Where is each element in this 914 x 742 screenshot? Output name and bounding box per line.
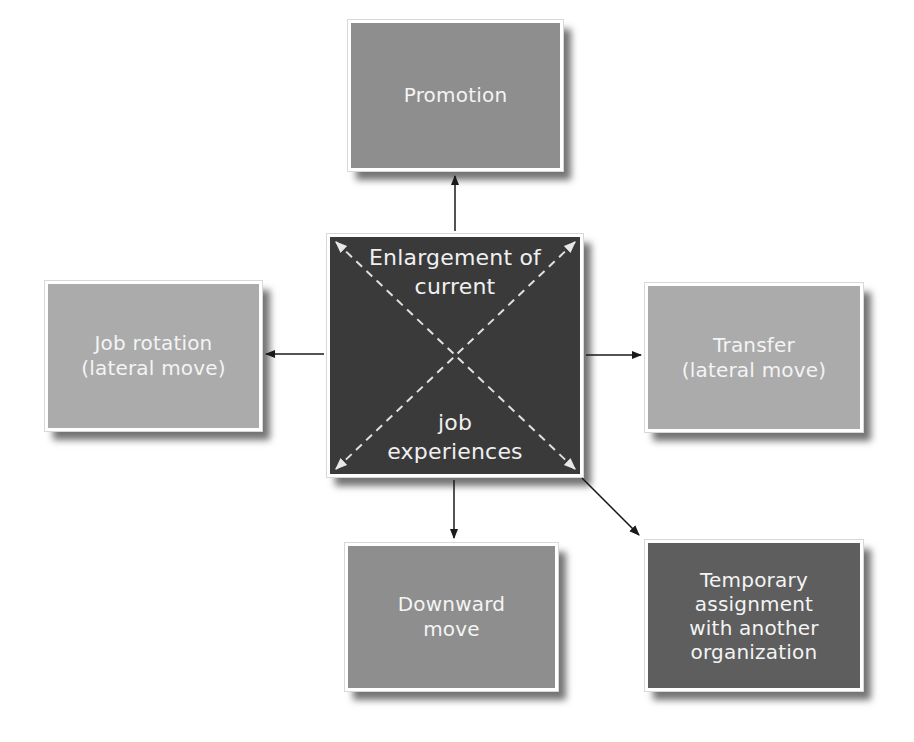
node-downward-move-label: Downward move: [398, 592, 505, 642]
node-center-enlargement: Enlargement of current job experiences: [327, 234, 583, 477]
career-development-diagram: Promotion Job rotation (lateral move) Tr…: [0, 0, 914, 742]
center-label-top: Enlargement of current: [330, 243, 580, 301]
arrow-to-temporary-assignment: [582, 478, 639, 535]
node-temporary-assignment: Temporary assignment with another organi…: [645, 540, 863, 691]
center-label-bottom: job experiences: [330, 408, 580, 466]
node-promotion: Promotion: [348, 20, 563, 171]
node-transfer-label: Transfer (lateral move): [682, 333, 827, 383]
node-job-rotation: Job rotation (lateral move): [45, 281, 262, 431]
node-transfer: Transfer (lateral move): [645, 283, 863, 432]
node-temporary-assignment-label: Temporary assignment with another organi…: [689, 568, 818, 664]
node-job-rotation-label: Job rotation (lateral move): [81, 331, 226, 381]
node-downward-move: Downward move: [345, 543, 558, 691]
node-promotion-label: Promotion: [404, 83, 508, 108]
